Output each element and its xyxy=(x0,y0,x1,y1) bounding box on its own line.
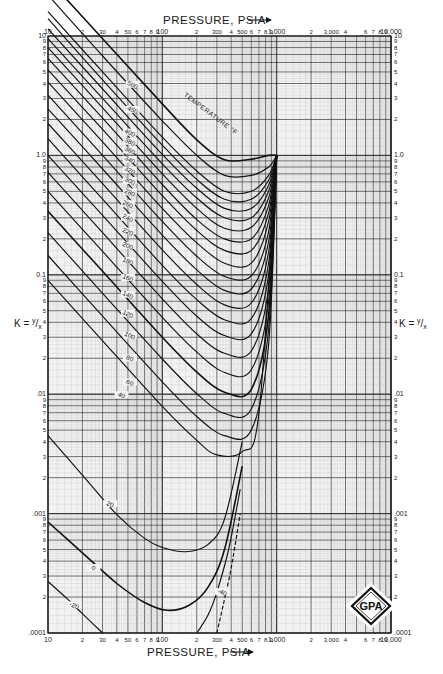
y-minor-tick-label: 8 xyxy=(394,403,398,409)
y-minor-tick-label: 5 xyxy=(394,547,398,553)
x-tick-label: 100 xyxy=(156,636,168,643)
x-tick-label: 300 xyxy=(212,29,223,35)
y-minor-tick-label: 6 xyxy=(43,298,47,304)
x-tick-label: 3,000 xyxy=(324,29,340,35)
x-tick-label: 6 xyxy=(135,637,139,643)
y-minor-tick-label: 5 xyxy=(43,188,47,194)
x-tick-label: 30 xyxy=(99,29,106,35)
y-minor-tick-label: 5 xyxy=(43,69,47,75)
y-minor-tick-label: 3 xyxy=(43,573,47,579)
x-tick-label: 7 xyxy=(372,29,376,35)
y-minor-tick-label: 3 xyxy=(43,95,47,101)
x-tick-label: 4 xyxy=(229,637,233,643)
y-minor-tick-label: 7 xyxy=(394,410,398,416)
y-minor-tick-label: 2 xyxy=(394,475,398,481)
y-minor-tick-label: 2 xyxy=(43,355,47,361)
y-minor-tick-label: 9 xyxy=(43,277,47,283)
y-minor-tick-label: 8 xyxy=(394,45,398,51)
x-tick-label: 2 xyxy=(81,29,85,35)
y-minor-tick-label: 2 xyxy=(43,475,47,481)
x-tick-label: 7 xyxy=(372,637,376,643)
y-minor-tick-label: 4 xyxy=(43,200,47,206)
y-minor-tick-label: 4 xyxy=(394,558,398,564)
y-minor-tick-label: 3 xyxy=(394,573,398,579)
x-tick-label: 10 xyxy=(44,636,52,643)
x-tick-label: 6 xyxy=(135,29,139,35)
y-minor-tick-label: 5 xyxy=(43,427,47,433)
y-minor-tick-label: 4 xyxy=(43,319,47,325)
y-minor-tick-label: 7 xyxy=(394,171,398,177)
y-minor-tick-label: 6 xyxy=(394,179,398,185)
y-minor-tick-label: 7 xyxy=(394,51,398,57)
y-minor-tick-label: 2 xyxy=(43,116,47,122)
x-tick-label: 2 xyxy=(309,29,313,35)
y-minor-tick-label: 4 xyxy=(394,81,398,87)
y-minor-tick-label: 8 xyxy=(43,45,47,51)
x-tick-label: 3,000 xyxy=(324,637,340,643)
y-minor-tick-label: 7 xyxy=(394,529,398,535)
y-minor-tick-label: 9 xyxy=(43,38,47,44)
y-minor-tick-label: 5 xyxy=(394,427,398,433)
y-minor-tick-label: 6 xyxy=(43,418,47,424)
y-minor-tick-label: 4 xyxy=(43,439,47,445)
y-minor-tick-label: 5 xyxy=(43,308,47,314)
y-minor-tick-label: 3 xyxy=(394,454,398,460)
y-minor-tick-label: 6 xyxy=(43,537,47,543)
x-tick-label: 300 xyxy=(212,637,223,643)
y-minor-tick-label: 4 xyxy=(394,439,398,445)
x-tick-label: 6 xyxy=(250,29,254,35)
left-axis-title: K = y/x xyxy=(14,317,42,330)
x-tick-label: 2 xyxy=(195,29,199,35)
y-minor-tick-label: 8 xyxy=(394,164,398,170)
x-tick-label: 6 xyxy=(250,637,254,643)
k-value-chart: 5004504003803603403203002802602402202001… xyxy=(0,0,443,674)
y-minor-tick-label: 6 xyxy=(394,298,398,304)
x-tick-label: 1,000 xyxy=(268,636,286,643)
x-tick-label: 8 xyxy=(150,637,154,643)
y-minor-tick-label: 9 xyxy=(394,516,398,522)
svg-text:GPA: GPA xyxy=(359,600,382,612)
x-tick-label: 500 xyxy=(237,637,248,643)
x-tick-label: 7 xyxy=(257,29,261,35)
y-tick-label: .0001 xyxy=(28,629,46,636)
x-tick-label: 4 xyxy=(115,29,119,35)
y-minor-tick-label: 3 xyxy=(43,334,47,340)
y-minor-tick-label: 9 xyxy=(394,38,398,44)
y-minor-tick-label: 4 xyxy=(43,558,47,564)
y-minor-tick-label: 5 xyxy=(394,188,398,194)
y-minor-tick-label: 3 xyxy=(43,454,47,460)
y-minor-tick-label: 6 xyxy=(43,59,47,65)
y-minor-tick-label: 7 xyxy=(43,51,47,57)
x-tick-label: 6 xyxy=(364,637,368,643)
y-minor-tick-label: 5 xyxy=(394,308,398,314)
x-tick-label: 1,000 xyxy=(268,28,286,35)
x-tick-label: 7 xyxy=(143,637,147,643)
x-tick-label: 4 xyxy=(344,29,348,35)
y-minor-tick-label: 8 xyxy=(43,283,47,289)
y-minor-tick-label: 8 xyxy=(394,283,398,289)
y-minor-tick-label: 2 xyxy=(394,236,398,242)
x-tick-label: 30 xyxy=(99,637,106,643)
y-minor-tick-label: 7 xyxy=(43,410,47,416)
y-minor-tick-label: 5 xyxy=(394,69,398,75)
y-tick-label: .0001 xyxy=(394,629,412,636)
y-minor-tick-label: 2 xyxy=(43,594,47,600)
y-minor-tick-label: 4 xyxy=(394,319,398,325)
y-minor-tick-label: 9 xyxy=(43,158,47,164)
y-minor-tick-label: 8 xyxy=(394,522,398,528)
y-minor-tick-label: 7 xyxy=(43,529,47,535)
x-tick-label: 8 xyxy=(150,29,154,35)
y-minor-tick-label: 6 xyxy=(394,59,398,65)
y-minor-tick-label: 7 xyxy=(43,290,47,296)
y-minor-tick-label: 3 xyxy=(394,95,398,101)
y-minor-tick-label: 8 xyxy=(43,164,47,170)
y-minor-tick-label: 5 xyxy=(43,547,47,553)
y-minor-tick-label: 2 xyxy=(43,236,47,242)
y-minor-tick-label: 6 xyxy=(394,418,398,424)
x-tick-label: 6 xyxy=(364,29,368,35)
x-tick-label: 100 xyxy=(156,28,168,35)
x-tick-label: 4 xyxy=(115,637,119,643)
x-tick-label: 7 xyxy=(257,637,261,643)
y-minor-tick-label: 2 xyxy=(394,355,398,361)
y-minor-tick-label: 4 xyxy=(394,200,398,206)
